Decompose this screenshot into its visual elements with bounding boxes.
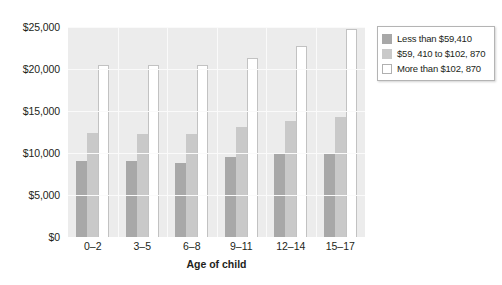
x-tick-label: 0–2 bbox=[68, 240, 118, 256]
bar-group bbox=[68, 27, 118, 237]
bar bbox=[296, 46, 307, 237]
y-tick-label: $5,000 bbox=[28, 189, 60, 201]
bar bbox=[87, 133, 98, 237]
bar-group bbox=[118, 27, 168, 237]
bar-chart: $0$5,000$10,000$15,000$20,000$25,000 0–2… bbox=[0, 0, 502, 285]
y-tick-label: $15,000 bbox=[23, 105, 60, 117]
gridline-vertical bbox=[316, 27, 317, 237]
bar bbox=[98, 65, 109, 237]
bar-group bbox=[266, 27, 316, 237]
y-tick-label: $10,000 bbox=[23, 147, 60, 159]
y-axis: $0$5,000$10,000$15,000$20,000$25,000 bbox=[0, 0, 68, 285]
bar-group bbox=[167, 27, 217, 237]
bar bbox=[148, 65, 159, 237]
gridline-vertical bbox=[266, 27, 267, 237]
x-axis-title: Age of child bbox=[68, 258, 365, 270]
legend-item[interactable]: More than $102, 870 bbox=[382, 61, 489, 76]
legend-label: $59, 410 to $102, 870 bbox=[397, 48, 485, 59]
bar bbox=[126, 161, 137, 237]
plot-area bbox=[68, 27, 365, 237]
bar bbox=[236, 127, 247, 237]
x-tick-label: 9–11 bbox=[217, 240, 267, 256]
legend-swatch-icon bbox=[382, 64, 392, 74]
gridline-vertical bbox=[118, 27, 119, 237]
x-tick-label: 3–5 bbox=[118, 240, 168, 256]
legend-swatch-icon bbox=[382, 34, 392, 44]
bar bbox=[247, 58, 258, 237]
y-tick-label: $20,000 bbox=[23, 63, 60, 75]
bar bbox=[225, 157, 236, 237]
legend-label: Less than $59,410 bbox=[397, 33, 472, 44]
x-tick-label: 15–17 bbox=[316, 240, 366, 256]
y-tick-label: $0 bbox=[49, 231, 60, 243]
bar-group bbox=[316, 27, 366, 237]
x-tick-label: 12–14 bbox=[266, 240, 316, 256]
bar bbox=[175, 163, 186, 237]
bar bbox=[76, 161, 87, 237]
x-axis: 0–23–56–89–1112–1415–17 bbox=[68, 240, 365, 256]
legend-label: More than $102, 870 bbox=[397, 63, 481, 74]
legend-swatch-icon bbox=[382, 49, 392, 59]
gridline-vertical bbox=[167, 27, 168, 237]
bar bbox=[186, 134, 197, 237]
chart-legend: Less than $59,410$59, 410 to $102, 870Mo… bbox=[377, 26, 495, 81]
bar bbox=[285, 121, 296, 237]
bar bbox=[197, 65, 208, 237]
gridline-vertical bbox=[217, 27, 218, 237]
bar bbox=[137, 134, 148, 237]
bar bbox=[335, 117, 346, 237]
y-tick-label: $25,000 bbox=[23, 21, 60, 33]
legend-item[interactable]: $59, 410 to $102, 870 bbox=[382, 46, 489, 61]
bar-group bbox=[217, 27, 267, 237]
x-tick-label: 6–8 bbox=[167, 240, 217, 256]
legend-item[interactable]: Less than $59,410 bbox=[382, 31, 489, 46]
bar bbox=[346, 29, 357, 237]
